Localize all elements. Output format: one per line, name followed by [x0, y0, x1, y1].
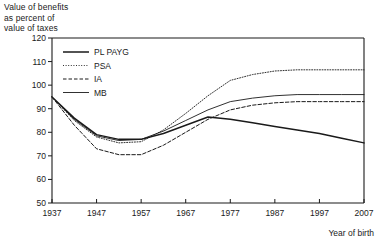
line-chart-plot: 1201101009080706050 19371947195719671977…: [0, 0, 380, 244]
legend-label-psa: PSA: [94, 61, 111, 71]
x-axis-label: Year of birth: [328, 228, 374, 238]
legend-label-pl-payg: PL PAYG: [94, 47, 129, 57]
series-line-ia: [52, 97, 364, 155]
x-tick-label: 1957: [132, 208, 151, 218]
chart-container: Value of benefits as percent of value of…: [0, 0, 380, 244]
y-tick-label: 100: [32, 80, 46, 90]
x-tick-label: 1937: [43, 208, 62, 218]
y-tick-label: 120: [32, 33, 46, 43]
y-tick-label: 80: [37, 127, 47, 137]
y-tick-label: 90: [37, 104, 47, 114]
y-tick-label: 110: [32, 57, 46, 67]
x-tick-label: 1987: [265, 208, 284, 218]
legend-label-ia: IA: [94, 74, 102, 84]
x-tick-label: 1947: [87, 208, 106, 218]
y-tick-label: 60: [37, 174, 47, 184]
y-tick-label: 50: [37, 198, 47, 208]
x-tick-label: 2007: [355, 208, 374, 218]
x-tick-label: 1967: [176, 208, 195, 218]
x-tick-label: 1997: [310, 208, 329, 218]
x-axis-ticks: 19371947195719671977198719972007: [43, 199, 374, 218]
y-axis-ticks: 1201101009080706050: [32, 33, 52, 208]
chart-legend: PL PAYGPSAIAMB: [63, 47, 129, 97]
legend-label-mb: MB: [94, 88, 107, 98]
x-tick-label: 1977: [221, 208, 240, 218]
y-tick-label: 70: [37, 151, 47, 161]
